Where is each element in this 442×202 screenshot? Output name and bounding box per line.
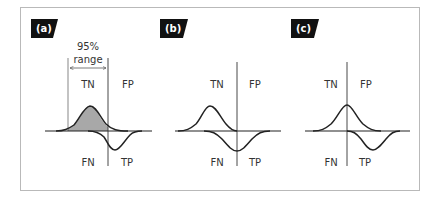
panel-a-badge: (a) <box>31 19 58 38</box>
range-word-label: range <box>73 54 102 65</box>
label-tp: TP <box>248 157 261 168</box>
label-tp: TP <box>358 157 371 168</box>
panel-b: (b) TN FP FN TP <box>160 19 281 168</box>
label-fp: FP <box>122 79 134 90</box>
label-fp: FP <box>249 79 261 90</box>
panel-c-badge: (c) <box>291 19 319 38</box>
panel-a-badge-label: (a) <box>36 23 52 34</box>
panel-c-badge-label: (c) <box>296 23 311 34</box>
range-percent-label: 95% <box>77 41 99 52</box>
positive-distribution-curve <box>88 131 142 150</box>
label-fp: FP <box>360 79 372 90</box>
panel-c: (c) TN FP FN TP <box>291 19 410 168</box>
panel-b-badge: (b) <box>160 19 188 38</box>
positive-distribution-curve <box>347 131 400 150</box>
negative-distribution-curve <box>178 106 237 131</box>
label-tp: TP <box>120 157 133 168</box>
label-fn: FN <box>81 157 94 168</box>
label-fn: FN <box>210 157 223 168</box>
panel-a: (a) 95% range TN FP FN TP <box>31 19 152 168</box>
panel-b-badge-label: (b) <box>165 23 181 34</box>
label-tn: TN <box>323 79 338 90</box>
label-fn: FN <box>324 157 337 168</box>
label-tn: TN <box>80 79 95 90</box>
label-tn: TN <box>209 79 224 90</box>
figure-diagram: (a) 95% range TN FP FN TP (b) TN FP <box>0 0 442 202</box>
